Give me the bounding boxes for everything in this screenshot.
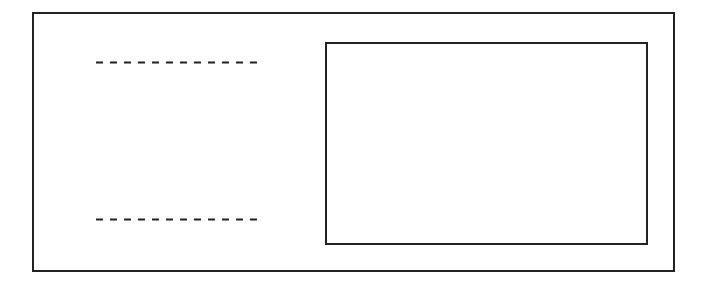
- inner-rectangle: [325, 42, 648, 245]
- dashed-line-top: [96, 61, 264, 64]
- dashed-line-bottom: [96, 218, 264, 221]
